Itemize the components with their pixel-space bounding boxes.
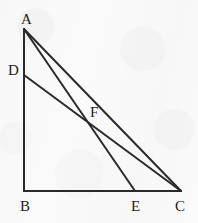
vertex-label-f: F [90,105,98,120]
geometry-canvas [0,0,198,223]
geometry-figure: A D F B E C [0,0,198,223]
vertex-label-d: D [8,63,19,78]
segment-layer [24,29,181,191]
cevian-dc [24,75,181,191]
segment-ac [24,29,181,191]
cevian-ae [24,29,135,191]
vertex-label-b: B [20,199,30,214]
vertex-label-c: C [175,199,185,214]
vertex-label-a: A [21,12,32,27]
vertex-label-e: E [131,199,140,214]
